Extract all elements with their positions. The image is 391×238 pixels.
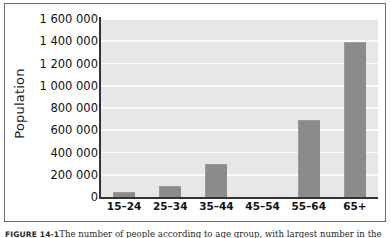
- x-axis-tick-label: 65+: [343, 200, 366, 212]
- gridline: [101, 40, 378, 42]
- gridline: [101, 63, 378, 65]
- y-axis-tick-label: 1 600 000: [26, 12, 98, 26]
- gridline: [101, 174, 378, 176]
- y-axis-tick-label: 200 000: [26, 168, 98, 182]
- x-axis-tick-label: 25–34: [153, 200, 187, 212]
- x-axis-tick-label: 15–24: [107, 200, 141, 212]
- y-axis-tick-label: 1 000 000: [26, 79, 98, 93]
- x-axis-tick-labels: 15–2425–3435–4445–5455–6465+: [101, 200, 378, 214]
- y-axis-title: Population: [12, 44, 27, 164]
- figure-caption-number: FIGURE 14-1: [5, 230, 59, 238]
- bar[interactable]: [159, 186, 181, 197]
- y-axis-tick-label: 1 200 000: [26, 57, 98, 71]
- figure-caption: FIGURE 14-1The number of people accordin…: [5, 229, 389, 238]
- x-axis-tick-label: 35–44: [199, 200, 233, 212]
- x-axis-spine: [99, 197, 378, 199]
- bar[interactable]: [205, 164, 227, 197]
- x-axis-tick-label: 55–64: [292, 200, 326, 212]
- bar[interactable]: [298, 120, 320, 197]
- y-axis-tick-label: 400 000: [26, 146, 98, 160]
- y-axis-tick-labels: 0200 000400 000600 000800 0001 000 0001 …: [26, 13, 98, 199]
- gridline: [101, 107, 378, 109]
- gridline: [101, 19, 378, 20]
- bar[interactable]: [344, 42, 366, 197]
- figure-caption-text: The number of people according to age gr…: [59, 229, 382, 238]
- y-axis-tick-label: 600 000: [26, 123, 98, 137]
- y-axis-tick-label: 0: [26, 190, 98, 204]
- gridline: [101, 85, 378, 87]
- plot-area: [101, 19, 378, 197]
- gridline: [101, 129, 378, 131]
- gridline: [101, 152, 378, 154]
- x-axis-tick-label: 45–54: [245, 200, 279, 212]
- y-axis-tick-label: 1 400 000: [26, 34, 98, 48]
- bar[interactable]: [113, 192, 135, 197]
- y-axis-tick-label: 800 000: [26, 101, 98, 115]
- figure-container: Population 0200 000400 000600 000800 000…: [0, 0, 391, 238]
